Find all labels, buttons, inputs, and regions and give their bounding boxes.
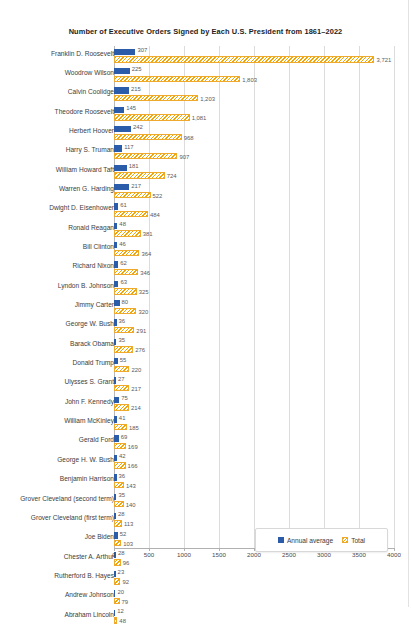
bar-value-annual-average: 20 [117, 589, 124, 595]
chart-row: Warren G. Harding217522 [0, 181, 411, 200]
bar-value-annual-average: 117 [124, 144, 133, 150]
bar-annual-average [114, 358, 118, 364]
bar-value-total: 3,721 [376, 57, 391, 63]
y-axis-label: Theodore Roosevelt [55, 108, 114, 116]
bar-total [114, 578, 120, 584]
bar-total [114, 404, 129, 410]
chart-row: Ulysses S. Grant27217 [0, 375, 411, 394]
bar-group: 36143 [114, 472, 408, 491]
bar-annual-average [114, 126, 131, 132]
bar-total [114, 211, 148, 217]
bar-value-annual-average: 46 [119, 241, 126, 247]
bar-value-total: 143 [126, 483, 136, 489]
bar-annual-average [114, 571, 116, 577]
bar-value-total: 169 [128, 444, 138, 450]
chart-row: Dwight D. Eisenhower61484 [0, 201, 411, 220]
bar-value-annual-average: 27 [118, 376, 125, 382]
bar-value-annual-average: 145 [126, 105, 136, 111]
x-axis-tick-label: 4000 [387, 551, 401, 558]
bar-total [114, 153, 177, 159]
bar-value-total: 346 [140, 270, 150, 276]
chart-row: George H. W. Bush42166 [0, 452, 411, 471]
chart-row: Franklin D. Roosevelt3073,721 [0, 46, 411, 65]
bar-value-annual-average: 41 [119, 415, 126, 421]
chart-row: Lyndon B. Johnson63325 [0, 278, 411, 297]
chart-row: Grover Cleveland (first term)28113 [0, 510, 411, 529]
y-axis-label: William Howard Taft [56, 166, 114, 174]
y-axis-label: Benjamin Harrison [60, 475, 114, 483]
bar-annual-average [114, 281, 118, 287]
legend-label-total: Total [351, 537, 365, 544]
bar-value-total: 291 [136, 328, 146, 334]
bar-annual-average [114, 145, 122, 151]
y-axis-label: Warren G. Harding [59, 185, 114, 193]
y-axis-label: Joe Biden [85, 533, 114, 541]
bar-value-total: 217 [131, 386, 141, 392]
bar-annual-average [114, 184, 129, 190]
bar-annual-average [114, 435, 119, 441]
bar-annual-average [114, 339, 116, 345]
bar-value-total: 907 [179, 154, 189, 160]
bar-value-annual-average: 35 [118, 337, 125, 343]
bar-value-annual-average: 36 [119, 318, 126, 324]
x-axis-tick-label: 3000 [317, 551, 331, 558]
x-axis-tick-label: 1500 [212, 551, 226, 558]
bar-group: 48381 [114, 220, 408, 239]
bar-value-annual-average: 181 [129, 163, 139, 169]
bar-value-annual-average: 55 [120, 357, 127, 363]
bar-value-annual-average: 62 [120, 260, 127, 266]
bar-total [114, 308, 136, 314]
bar-value-total: 320 [138, 309, 148, 315]
x-axis-tick-label: 3500 [352, 551, 366, 558]
bar-total [114, 520, 122, 526]
bar-group: 27217 [114, 375, 408, 394]
chart-row: Jimmy Carter80320 [0, 297, 411, 316]
bar-value-annual-average: 215 [131, 86, 141, 92]
bar-value-annual-average: 61 [120, 202, 127, 208]
bar-group: 36291 [114, 317, 408, 336]
bar-value-annual-average: 217 [131, 183, 141, 189]
bar-value-annual-average: 23 [118, 569, 125, 575]
chart-plot-area: Franklin D. Roosevelt3073,721Woodrow Wil… [0, 46, 411, 558]
bar-group: 35140 [114, 491, 408, 510]
bar-value-total: 364 [141, 251, 151, 257]
bar-value-total: 185 [129, 425, 139, 431]
bar-value-total: 103 [123, 541, 133, 547]
y-axis-label: Franklin D. Roosevelt [51, 50, 114, 58]
chart-row: Donald Trump55220 [0, 356, 411, 375]
bar-total [114, 114, 190, 120]
y-axis-label: Jimmy Carter [75, 301, 114, 309]
chart-row: Gerald Ford69169 [0, 433, 411, 452]
y-axis-label: Abraham Lincoln [65, 611, 114, 619]
bar-total [114, 192, 151, 198]
bar-total [114, 288, 137, 294]
bar-total [114, 482, 124, 488]
chart-row: Bill Clinton46364 [0, 239, 411, 258]
y-axis-label: Ulysses S. Grant [65, 378, 114, 386]
x-axis-tick-label: 0 [112, 551, 115, 558]
bar-annual-average [114, 203, 118, 209]
bar-group: 28113 [114, 510, 408, 529]
y-axis-label: Grover Cleveland (second term) [20, 495, 114, 503]
y-axis-label: Harry S. Truman [66, 146, 114, 154]
bar-value-annual-average: 69 [121, 434, 128, 440]
bar-value-total: 968 [184, 135, 194, 141]
bar-value-total: 1,081 [192, 115, 207, 121]
y-axis-label: Rutherford B. Hayes [54, 572, 114, 580]
chart-row: Woodrow Wilson2251,803 [0, 65, 411, 84]
bar-total [114, 172, 165, 178]
bar-value-total: 276 [135, 347, 145, 353]
chart-title: Number of Executive Orders Signed by Eac… [0, 27, 411, 36]
bar-group: 117907 [114, 143, 408, 162]
bar-total [114, 366, 129, 372]
chart-row: Harry S. Truman117907 [0, 143, 411, 162]
bar-total [114, 56, 374, 62]
bar-total [114, 269, 138, 275]
bar-group: 62346 [114, 259, 408, 278]
bar-group: 2151,203 [114, 85, 408, 104]
bar-annual-average [114, 300, 120, 306]
bar-group: 2079 [114, 588, 408, 607]
bar-value-total: 1,203 [200, 96, 215, 102]
legend-swatch-total [342, 537, 348, 543]
bar-annual-average [114, 223, 117, 229]
